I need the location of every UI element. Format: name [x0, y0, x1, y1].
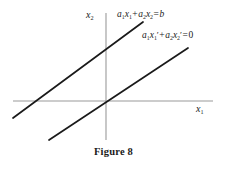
equation-homogeneous-label: a1x1′+a2x2′=0	[142, 31, 193, 41]
equation-general-label: a1x1+a2x2=b	[117, 10, 164, 20]
x-axis-label: x1	[196, 104, 204, 114]
line-inhomogeneous	[13, 22, 143, 118]
eq-general-x2-sub: 2	[150, 14, 153, 20]
figure-caption: Figure 8	[0, 146, 227, 157]
x-axis-label-subscript: 1	[200, 108, 203, 115]
eq-general-x1-sub: 1	[129, 14, 132, 20]
y-axis-label: x2	[86, 10, 94, 20]
eq-general-rhs: b	[159, 9, 164, 19]
eq-hom-x1-sub: 1	[154, 35, 157, 41]
eq-hom-a2-sub: 2	[170, 35, 173, 41]
eq-hom-a1-sub: 1	[147, 35, 150, 41]
y-axis-label-subscript: 2	[90, 14, 93, 21]
figure-8-container: x2 x1 a1x1+a2x2=b a1x1′+a2x2′=0 Figure 8	[0, 0, 227, 169]
eq-hom-x2-sub: 2	[177, 35, 180, 41]
line-homogeneous	[49, 48, 188, 140]
eq-general-a1-sub: 1	[122, 14, 125, 20]
eq-hom-rhs: 0	[188, 30, 193, 40]
eq-general-a2-sub: 2	[143, 14, 146, 20]
plot-canvas	[0, 0, 227, 169]
